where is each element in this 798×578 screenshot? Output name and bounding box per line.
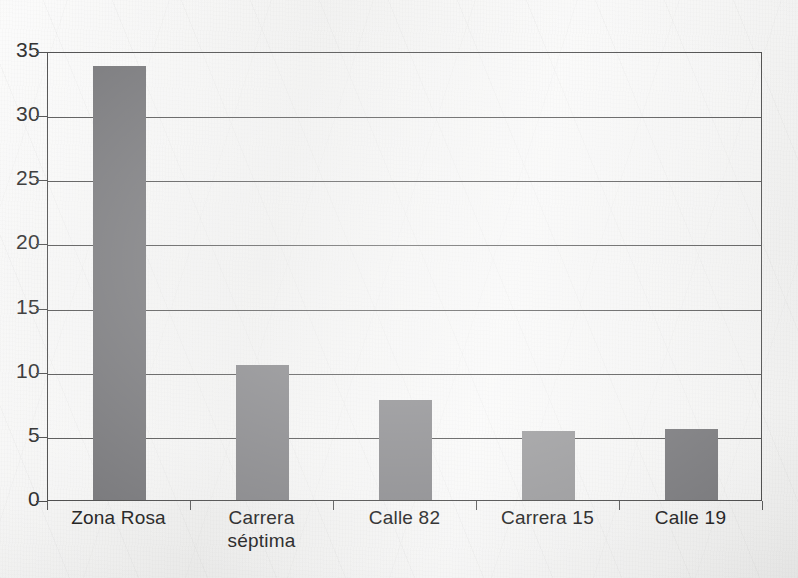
bar	[236, 365, 289, 500]
x-axis-category-label-line: Calle 82	[333, 506, 476, 529]
gridline-20	[48, 245, 761, 246]
x-axis-category-label: Calle 82	[333, 506, 476, 529]
x-axis-category-label: Calle 19	[619, 506, 762, 529]
x-axis-category-label: Carreraséptima	[190, 506, 333, 552]
y-axis-tick-label: 20	[0, 230, 40, 254]
x-axis-category-label-line: Carrera	[190, 506, 333, 529]
x-axis-category-label-line: Calle 19	[619, 506, 762, 529]
x-axis-category-label: Carrera 15	[476, 506, 619, 529]
gridline-30	[48, 117, 761, 118]
y-axis-tick-mark	[36, 52, 47, 53]
bar	[93, 66, 146, 500]
y-axis-tick-label: 15	[0, 295, 40, 319]
y-axis-tick-mark	[36, 180, 47, 181]
y-axis-tick-mark	[36, 437, 47, 438]
y-axis-tick-label: 5	[0, 423, 40, 447]
y-axis-tick-mark	[36, 373, 47, 374]
bar	[379, 400, 432, 500]
y-axis-tick-mark	[36, 501, 47, 502]
bar	[665, 429, 718, 500]
gridline-25	[48, 181, 761, 182]
plot-area	[47, 52, 762, 501]
gridline-15	[48, 310, 761, 311]
x-axis-category-label-line: Zona Rosa	[47, 506, 190, 529]
x-axis-category-label-line: Carrera 15	[476, 506, 619, 529]
x-axis-category-label-line: séptima	[190, 529, 333, 552]
y-axis-tick-mark	[36, 244, 47, 245]
y-axis-tick-label: 35	[0, 38, 40, 62]
y-axis-tick-mark	[36, 116, 47, 117]
y-axis-tick-label: 30	[0, 102, 40, 126]
x-axis-tick-mark	[762, 501, 763, 510]
y-axis-tick-mark	[36, 309, 47, 310]
bar	[522, 431, 575, 500]
gridline-10	[48, 374, 761, 375]
y-axis-tick-label: 0	[0, 487, 40, 511]
chart-page: 05101520253035 Zona RosaCarreraséptimaCa…	[0, 0, 798, 578]
x-axis-category-label: Zona Rosa	[47, 506, 190, 529]
y-axis-tick-label: 10	[0, 359, 40, 383]
y-axis-tick-label: 25	[0, 166, 40, 190]
